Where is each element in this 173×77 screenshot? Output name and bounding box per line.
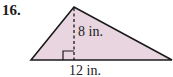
height-label: 8 in. <box>78 24 103 40</box>
base-label: 12 in. <box>69 63 101 77</box>
